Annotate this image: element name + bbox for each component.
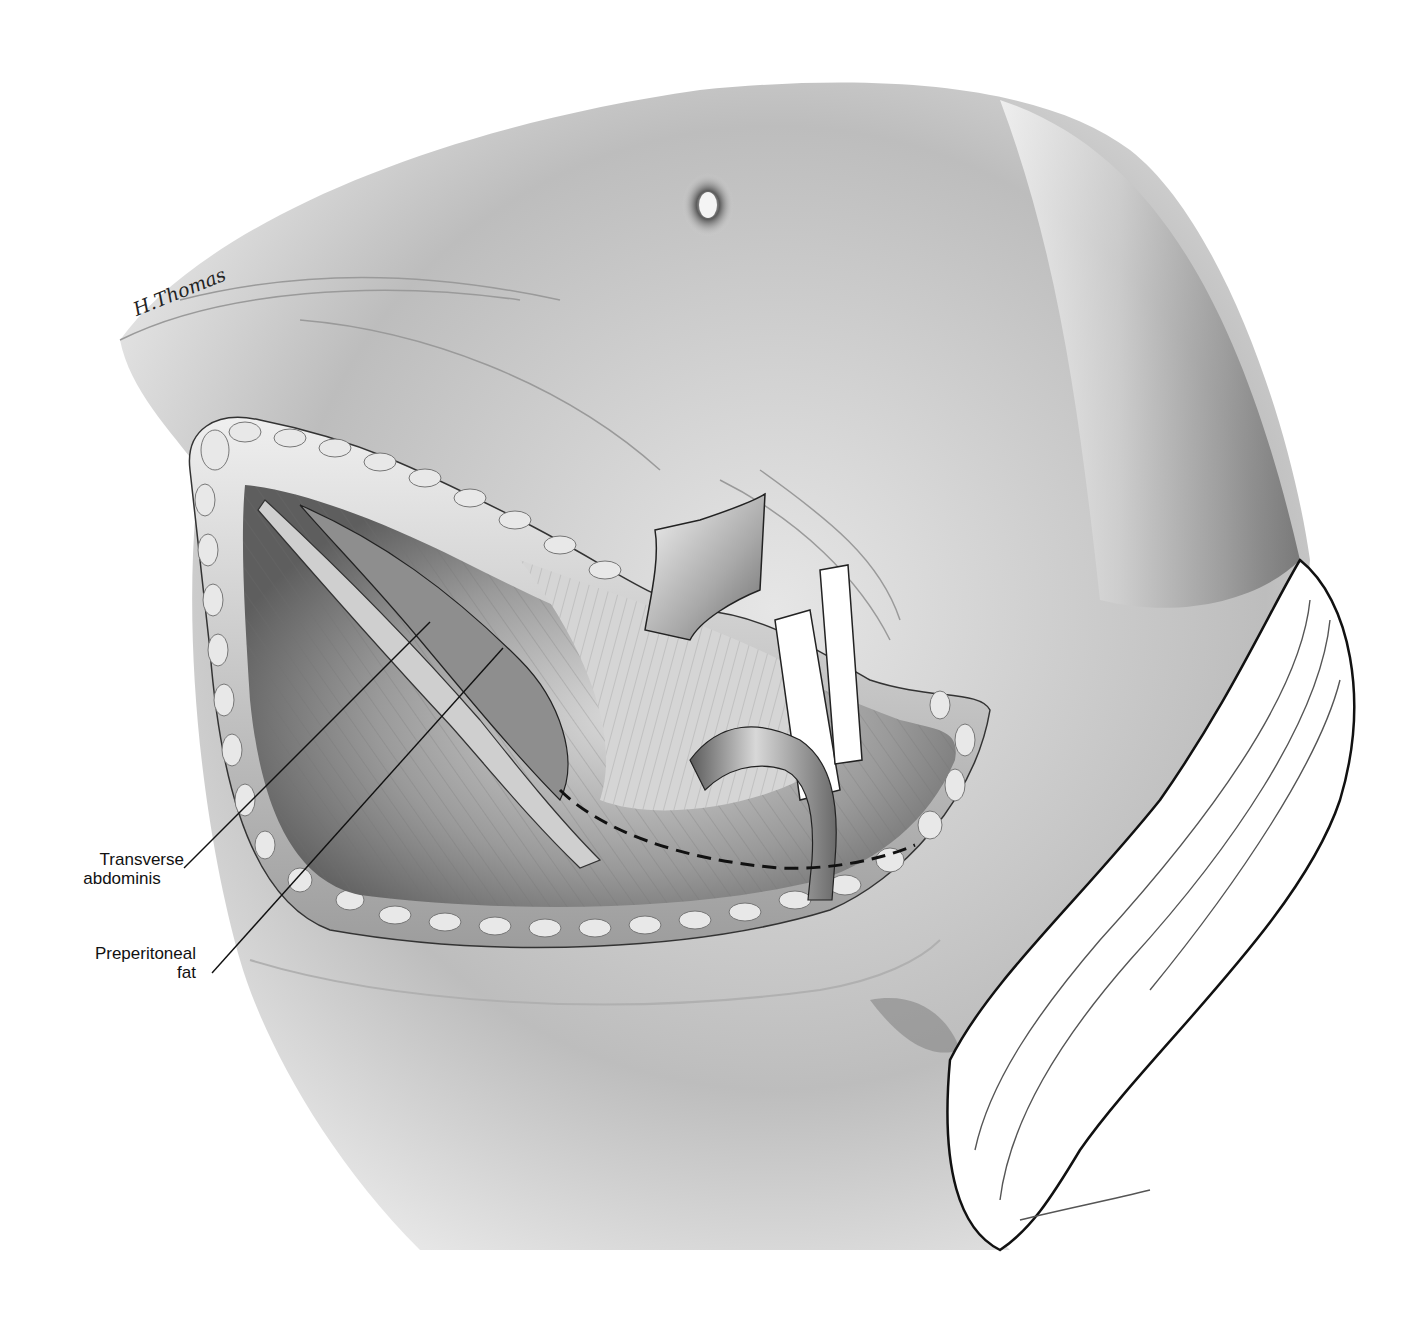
umbilicus-highlight (699, 192, 717, 218)
label-preperitoneal-fat: Preperitoneal fat (40, 944, 196, 982)
label-line: Transverse (60, 850, 184, 869)
surgical-illustration (0, 0, 1420, 1333)
label-line: fat (40, 963, 196, 982)
label-transverse-abdominis: Transverse abdominis (60, 850, 184, 888)
label-line: abdominis (60, 869, 184, 888)
label-line: Preperitoneal (40, 944, 196, 963)
